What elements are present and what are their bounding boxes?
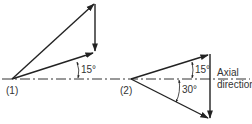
velocity-triangle-2: 15° 30° (2) — [120, 54, 210, 118]
velocity-triangle-1: 15° (1) — [6, 4, 96, 96]
angle-arc-1 — [77, 62, 79, 78]
angle-arc-upper-2 — [192, 62, 193, 78]
angle-label-upper-2: 15° — [195, 64, 210, 75]
axial-label-line1: Axial — [217, 67, 239, 78]
angle-label-lower-2: 30° — [182, 84, 197, 95]
case-label-2: (2) — [120, 85, 132, 96]
axial-label-line2: direction — [217, 79, 252, 90]
case-label-1: (1) — [6, 85, 18, 96]
velocity-triangles-diagram: 15° (1) 15° 30° (2) Axial direction — [0, 0, 252, 124]
angle-arc-lower-2 — [176, 80, 180, 102]
angle-label-1: 15° — [81, 64, 96, 75]
